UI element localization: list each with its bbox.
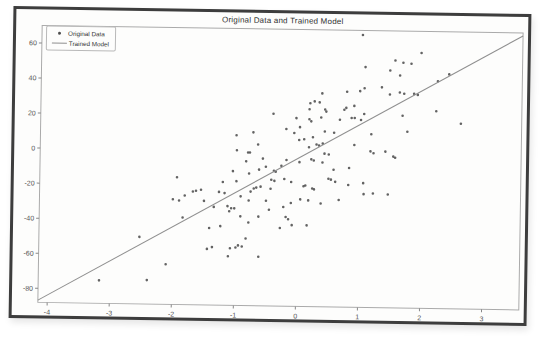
data-point [435,110,438,113]
data-point [370,133,373,136]
data-point [235,134,238,137]
data-point [332,168,335,171]
data-point [226,205,229,208]
x-tick-label: -3 [106,309,112,316]
data-point [219,225,222,228]
data-point [223,192,226,195]
data-point [394,59,397,62]
data-point [323,152,326,155]
data-point [228,210,231,213]
data-point [218,191,221,194]
data-point [98,279,101,282]
data-point [337,199,340,202]
data-point [239,215,242,218]
figure-frame: Original Data and Trained Model -4-3-2-1… [9,6,532,326]
data-point [308,108,311,111]
data-point [319,202,322,205]
data-point [364,66,367,69]
data-point [237,244,240,247]
data-point [272,112,275,115]
data-point [362,34,365,37]
data-point [273,180,276,183]
data-point [284,216,287,219]
data-point [290,202,293,205]
data-point [345,107,348,110]
data-point [172,198,175,201]
y-tick-label: 60 [29,39,37,46]
data-point [309,102,312,105]
data-point [310,158,313,161]
data-point [343,108,346,111]
data-point [236,149,239,152]
data-point [350,117,353,120]
data-point [321,92,324,95]
data-point [227,255,230,258]
data-point [295,117,298,120]
data-point [315,143,318,146]
data-point [178,199,181,202]
data-point [312,136,315,139]
data-point [252,131,255,134]
x-tick-label: -1 [230,311,236,318]
x-tick-label: -4 [44,308,50,315]
data-point [321,161,324,164]
data-point [290,181,293,184]
data-point [195,189,198,192]
y-tick-label: -20 [25,179,35,186]
data-point [192,190,195,193]
data-point [305,224,308,227]
data-point [282,206,285,209]
data-point [372,192,375,195]
scatter-marker-icon [58,32,61,35]
data-point [232,170,235,173]
data-point [339,118,342,121]
y-tick-label: -60 [23,250,33,257]
data-point [369,150,372,153]
data-point [381,86,384,89]
data-point [138,236,141,239]
data-point [268,208,271,211]
data-point [389,69,392,72]
data-point [233,207,236,210]
data-point [247,199,250,202]
data-point [249,151,252,154]
scanned-figure-page: Original Data and Trained Model -4-3-2-1… [0,0,541,344]
data-point [265,165,268,168]
data-point [363,87,366,90]
data-point [320,116,323,119]
data-point [299,198,302,201]
data-point [208,227,211,230]
data-point [222,181,225,184]
data-point [287,218,290,221]
line-marker-icon [52,43,67,44]
trained-model-line [38,28,523,307]
legend-item-trained-model: Trained Model [51,40,111,48]
data-point [324,130,327,133]
data-point [307,199,310,202]
x-tick-label: 3 [479,315,483,322]
data-point [403,92,406,95]
chart-canvas: -4-3-2-10123-80-60-40-200204060 [12,9,529,323]
y-tick-label: 40 [29,74,37,81]
data-point [308,146,311,149]
data-point [362,182,365,185]
data-point [262,157,265,160]
data-point [255,186,258,189]
legend-label-trained-model: Trained Model [69,40,109,48]
data-point [203,200,206,203]
data-point [245,160,248,163]
data-point [308,118,311,121]
data-point [298,139,301,142]
data-point [269,187,272,190]
data-point [257,215,260,218]
data-point [230,207,233,210]
legend-item-original-data: Original Data [51,30,111,38]
data-point [258,168,261,171]
data-point [200,188,203,191]
data-point [420,52,423,55]
y-tick-label: 20 [28,109,36,116]
data-point [293,132,296,135]
data-point [181,216,184,219]
data-point [248,172,251,175]
data-point [372,152,375,155]
